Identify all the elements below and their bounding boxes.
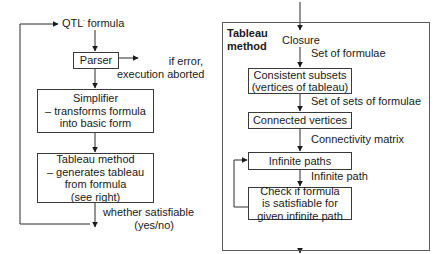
check-satisfiable-box: Check if formula is satisfiable for give…: [248, 187, 352, 220]
simplifier-desc2: into basic form: [45, 117, 146, 130]
edge2-text: Set of sets of formulae: [311, 95, 421, 107]
tableau-desc1: – generates tableau: [47, 166, 144, 179]
consistent-subsets-box: Consistent subsets (vertices of tableau): [248, 68, 352, 94]
tableau-desc2: from formula: [47, 178, 144, 191]
closure-label: Closure: [282, 34, 320, 47]
output-line1: whether satisfiable: [102, 206, 194, 219]
check-line1: Check if formula: [257, 185, 343, 198]
parser-label: Parser: [80, 54, 112, 67]
parser-error-label: if error, execution aborted: [117, 55, 203, 81]
infinite-paths-label: Infinite paths: [269, 155, 331, 168]
consistent-line2: (vertices of tableau): [252, 81, 349, 94]
frame-title-line2: method: [227, 40, 268, 53]
frame-title-line1: Tableau: [227, 27, 268, 40]
error-line1: if error,: [117, 55, 203, 68]
error-line2: execution aborted: [117, 68, 203, 81]
consistent-line1: Consistent subsets: [252, 69, 349, 82]
tableau-title: Tableau method: [47, 153, 144, 166]
edge-connectivity-matrix: Connectivity matrix: [311, 133, 404, 146]
closure-text: Closure: [282, 34, 320, 46]
connected-label: Connected vertices: [253, 114, 347, 127]
edge4-text: Infinite path: [311, 170, 368, 182]
output-line2: (yes/no): [102, 219, 174, 232]
formula-text: formula: [85, 17, 125, 29]
output-label: whether satisfiable (yes/no): [102, 206, 194, 232]
connected-vertices-box: Connected vertices: [248, 112, 352, 129]
simplifier-box: Simplifier – transforms formula into bas…: [37, 89, 154, 133]
tableau-method-box: Tableau method – generates tableau from …: [37, 153, 154, 203]
edge3-text: Connectivity matrix: [311, 133, 404, 145]
check-line3: given infinite path: [257, 210, 343, 223]
qtl-text: QTL: [62, 17, 83, 29]
tableau-frame-title: Tableau method: [227, 27, 268, 53]
simplifier-desc1: – transforms formula: [45, 105, 146, 118]
infinite-paths-box: Infinite paths: [248, 152, 352, 170]
simplifier-title: Simplifier: [45, 92, 146, 105]
tableau-desc3: (see right): [47, 191, 144, 204]
edge1-text: Set of formulae: [311, 47, 386, 59]
input-formula-label: QTL' formula: [62, 17, 124, 30]
edge-set-of-formulae: Set of formulae: [311, 47, 386, 60]
parser-box: Parser: [73, 52, 119, 69]
check-line2: is satisfiable for: [257, 197, 343, 210]
qtl-mark: ': [83, 19, 84, 25]
edge-infinite-path: Infinite path: [311, 170, 368, 183]
edge-set-of-sets: Set of sets of formulae: [311, 95, 421, 108]
